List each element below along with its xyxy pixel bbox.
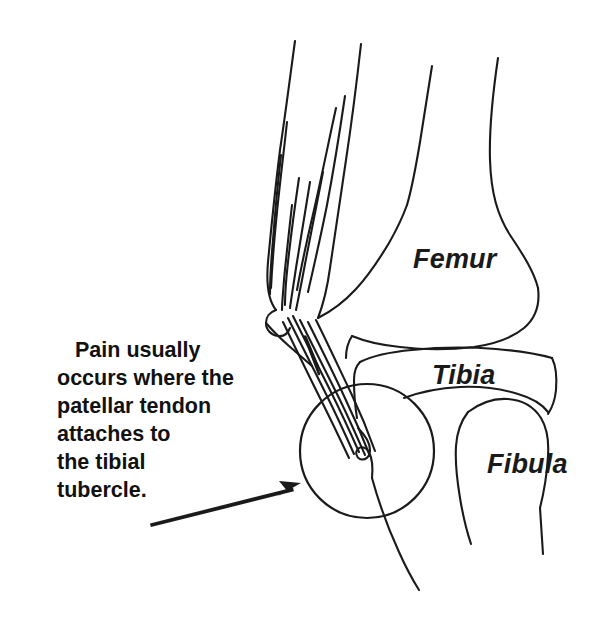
- tibia-under-plateau: [404, 387, 548, 412]
- label-femur: Femur: [413, 246, 497, 273]
- quadriceps-fiber-3: [308, 96, 345, 292]
- quadriceps-fiber-8: [282, 205, 292, 310]
- label-fibula: Fibula: [487, 451, 568, 478]
- tibia-lateral-margin: [548, 358, 556, 414]
- fibula-anterior-border: [456, 412, 471, 544]
- label-tibia: Tibia: [432, 362, 496, 389]
- patellar-tendon-fiber-1: [288, 318, 354, 454]
- tibial-anterior-crest: [372, 478, 419, 590]
- knee-anatomy-illustration: [0, 0, 599, 617]
- patellar-tendon-fiber-3: [300, 320, 365, 455]
- caption-line: attaches to: [57, 420, 287, 448]
- patellar-tendon-fiber-5: [316, 320, 375, 451]
- caption-line: tubercle.: [57, 476, 287, 504]
- patella-outline: [266, 310, 290, 336]
- fibula-shaft: [540, 508, 543, 554]
- vastus-lateralis-border: [318, 44, 361, 318]
- caption-text: Pain usually occurs where the patellar t…: [57, 336, 287, 504]
- femur-anterior-border-upper: [407, 66, 432, 205]
- femur-posterior-shaft: [490, 58, 538, 288]
- caption-line: occurs where the: [57, 364, 287, 392]
- posterior-joint-line: [346, 336, 352, 358]
- caption-line: the tibial: [57, 448, 287, 476]
- femoral-condyle: [352, 288, 538, 349]
- caption-line: Pain usually: [57, 336, 287, 364]
- caption-line: patellar tendon: [57, 392, 287, 420]
- figure-canvas: Femur Tibia Fibula Pain usually occurs w…: [0, 0, 599, 617]
